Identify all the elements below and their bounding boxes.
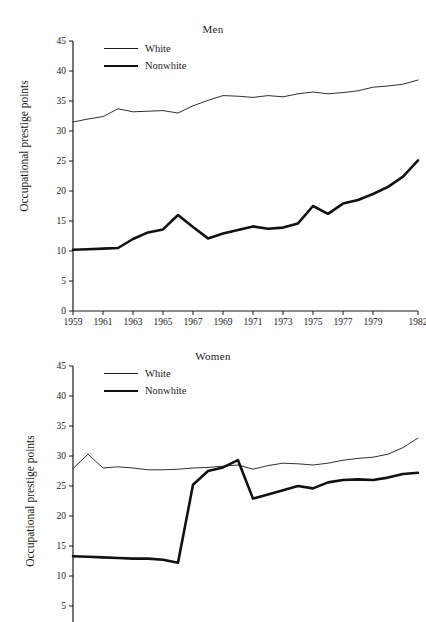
legend-item-nonwhite-men: Nonwhite [104,60,186,71]
y-tick-label: 20 [57,186,67,196]
y-tick-label: 10 [57,246,67,256]
x-tick-label: 1977 [334,317,353,327]
legend-label-white: White [145,368,171,379]
legend-item-white-men: White [104,43,171,54]
y-tick-label: 30 [57,126,67,136]
legend-label-nonwhite: Nonwhite [145,385,186,396]
y-tick-label: 0 [61,306,66,316]
legend-item-nonwhite-women: Nonwhite [104,385,186,396]
y-tick-label: 10 [57,571,67,581]
y-tick-label: 20 [57,511,67,521]
series-line-white [73,80,418,122]
series-line-white [73,438,418,470]
x-tick-label: 1963 [124,317,143,327]
y-tick-label: 15 [57,216,67,226]
legend-item-white-women: White [104,368,171,379]
y-tick-label: 30 [57,451,67,461]
y-tick-label: 5 [61,601,66,611]
chart-svg-women: 51015202530354045 [0,340,426,622]
figure-occupational-prestige: Men Occupational prestige points 0510152… [0,0,426,622]
y-tick-label: 15 [57,541,67,551]
series-line-nonwhite [73,160,418,249]
chart-panel-women: Women Occupational prestige points 51015… [0,340,426,622]
y-tick-label: 5 [61,276,66,286]
x-tick-label: 1971 [244,317,263,327]
x-tick-label: 1975 [304,317,323,327]
chart-svg-men: 0510152025303540451959196119631965196719… [0,0,426,340]
x-tick-label: 1961 [94,317,113,327]
y-tick-label: 25 [57,156,67,166]
y-tick-label: 45 [57,36,67,46]
x-tick-label: 1979 [364,317,383,327]
legend-line-white-icon [104,373,138,374]
x-tick-label: 1973 [274,317,293,327]
x-tick-label: 1969 [214,317,233,327]
x-tick-label: 1967 [184,317,203,327]
series-line-nonwhite [73,460,418,563]
y-tick-label: 35 [57,96,67,106]
y-tick-label: 40 [57,66,67,76]
legend-label-white: White [145,43,171,54]
x-tick-label: 1982 [409,317,426,327]
y-tick-label: 45 [57,361,67,371]
legend-label-nonwhite: Nonwhite [145,60,186,71]
y-tick-label: 25 [57,481,67,491]
y-tick-label: 40 [57,391,67,401]
y-tick-label: 35 [57,421,67,431]
x-tick-label: 1959 [64,317,83,327]
x-tick-label: 1965 [154,317,173,327]
legend-line-white-icon [104,48,138,49]
legend-line-nonwhite-icon [104,65,138,67]
chart-panel-men: Men Occupational prestige points 0510152… [0,0,426,340]
legend-line-nonwhite-icon [104,390,138,392]
